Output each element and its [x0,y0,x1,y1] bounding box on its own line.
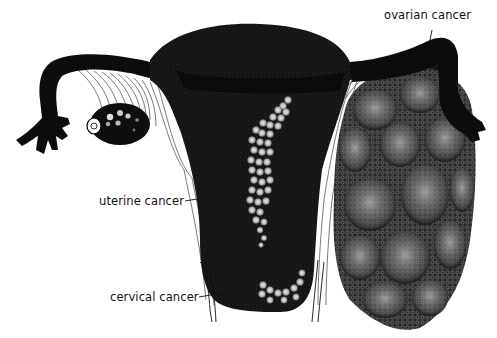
label-cervical-cancer: cervical cancer [110,290,199,304]
label-ovarian-cancer: ovarian cancer [384,8,471,22]
left-ovary [87,103,150,145]
reproductive-organs-illustration [0,0,497,338]
label-uterine-cancer: uterine cancer [99,194,184,208]
